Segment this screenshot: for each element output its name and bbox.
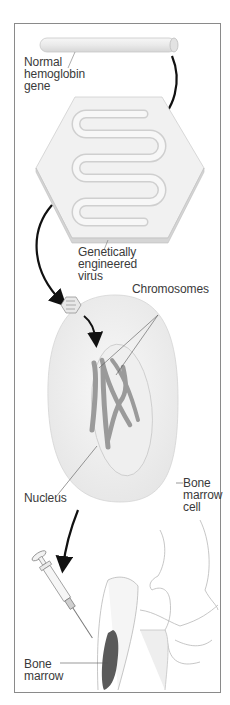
label-bone-marrow-cell: Bone marrow cell: [183, 477, 222, 513]
bone-marrow-core: [102, 630, 118, 690]
label-normal-hemoglobin-gene: Normal hemoglobin gene: [24, 56, 85, 92]
label-chromosomes: Chromosomes: [132, 283, 209, 295]
label-bone-marrow: Bone marrow: [24, 658, 63, 682]
arrow-cell-to-injection: [63, 510, 78, 567]
engineered-virus-hexagon: [36, 97, 204, 250]
label-genetically-engineered-virus: Genetically engineered virus: [78, 246, 137, 282]
label-nucleus: Nucleus: [24, 492, 67, 504]
arrow-virus-to-cell: [37, 205, 62, 302]
syringe: [31, 549, 99, 642]
gene-therapy-illustration: [0, 0, 230, 705]
bone-marrow-cell: [48, 295, 183, 502]
